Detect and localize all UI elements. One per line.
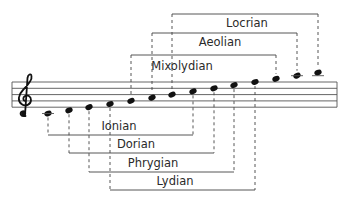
mode-label-mixolydian: Mixolydian	[151, 59, 212, 73]
mode-label-aeolian: Aeolian	[199, 35, 242, 49]
note-f5	[250, 78, 259, 86]
note-d5	[209, 84, 218, 92]
note-a5	[291, 72, 303, 80]
note-b5	[312, 68, 324, 76]
mode-label-ionian: Ionian	[101, 119, 136, 133]
mode-label-dorian: Dorian	[117, 137, 155, 151]
mode-brackets	[48, 14, 318, 190]
mode-label-locrian: Locrian	[226, 16, 268, 30]
note-c4	[42, 109, 54, 117]
note-e4	[84, 103, 93, 111]
mode-labels: LocrianAeolianMixolydianIonianDorianPhry…	[101, 16, 268, 188]
mode-label-phrygian: Phrygian	[128, 156, 179, 170]
modes-diagram: LocrianAeolianMixolydianIonianDorianPhry…	[0, 0, 347, 202]
note-b4	[167, 91, 176, 99]
notes	[42, 68, 324, 117]
treble-clef-icon	[19, 74, 32, 116]
mode-label-lydian: Lydian	[157, 174, 194, 188]
note-g4	[126, 97, 135, 105]
